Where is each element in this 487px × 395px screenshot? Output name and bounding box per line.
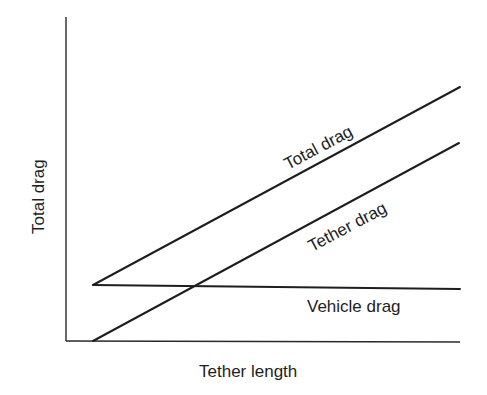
y-axis-label: Total drag — [29, 159, 48, 234]
tether-drag-label: Tether drag — [305, 198, 390, 255]
vehicle-drag-label: Vehicle drag — [307, 297, 401, 316]
x-axis — [66, 341, 460, 342]
tether-drag-line — [93, 143, 459, 341]
total-drag-label: Total drag — [281, 122, 356, 174]
vehicle-drag-line — [93, 285, 460, 289]
total-drag-line — [93, 87, 460, 285]
chart: Total drag Tether drag Vehicle drag Teth… — [0, 0, 487, 395]
x-axis-label: Tether length — [199, 362, 297, 381]
